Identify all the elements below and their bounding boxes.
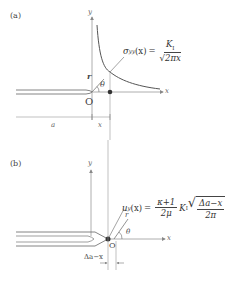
formula-root-den: 2π [205,210,216,220]
x-axis-label-b: x [167,235,171,242]
theta-label-a: θ [100,81,105,89]
panel-b-label: (b) [10,160,21,168]
origin-label-a: O [85,97,93,107]
dimension-a-label: a [51,122,55,129]
formula-sqrt: √ Δa−x 2π [188,196,225,219]
formula-arg: (x) [135,46,146,56]
formula-root-num: Δa−x [197,199,224,210]
formula-equals: = [148,46,155,56]
origin-label-b: O [109,242,116,250]
r-label-a: r [87,72,91,80]
y-axis-label-b: y [88,160,92,167]
theta-label-b: θ [126,229,130,236]
formula-den: 2πx [165,52,181,63]
formula-equals-b: = [144,203,151,213]
y-axis-label-a: y [88,9,92,16]
formula-k-sub: I [172,45,174,51]
stress-formula: σyy(x) = KI √2πx [123,40,183,63]
displacement-formula: uy(x) = κ+1 2μ KI √ Δa−x 2π [122,196,225,219]
crack-tip-diagram: (a) y x O r θ a x σyy(x) = KI √2πx (b) y… [0,0,251,281]
formula-kappa-den: 2μ [161,208,172,218]
dimension-delta-a-label: Δa−x [84,254,103,261]
formula-kappa-fraction: κ+1 2μ [155,198,177,218]
formula-kappa-num: κ+1 [155,198,177,209]
dimension-x-label: x [98,122,102,129]
x-axis-label-a: x [165,88,169,95]
formula-fraction: KI √2πx [160,40,181,63]
panel-a-label: (a) [10,12,21,20]
formula-u-arg: (x) [131,203,142,213]
